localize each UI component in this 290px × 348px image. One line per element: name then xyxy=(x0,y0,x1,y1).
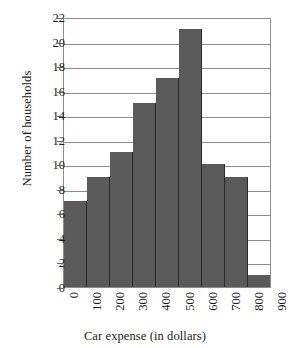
bar xyxy=(225,177,248,287)
x-tick-label: 600 xyxy=(207,292,220,311)
y-tick-mark xyxy=(57,141,63,142)
y-tick-mark xyxy=(57,43,63,44)
x-tick-label: 100 xyxy=(91,292,104,311)
y-tick-mark xyxy=(57,214,63,215)
y-axis-title: Number of households xyxy=(20,29,35,229)
bar xyxy=(156,78,179,287)
x-tick-label: 800 xyxy=(253,292,266,311)
y-tick-mark xyxy=(57,18,63,19)
bar xyxy=(110,152,133,287)
bar xyxy=(248,275,270,287)
y-tick-mark xyxy=(57,190,63,191)
x-tick-label: 0 xyxy=(68,292,81,298)
x-tick-label: 500 xyxy=(184,292,197,311)
histogram-chart: Number of households 0246810121416182022… xyxy=(0,0,290,348)
bar xyxy=(202,164,225,287)
bar xyxy=(87,177,110,287)
x-tick-label: 400 xyxy=(160,292,173,311)
y-tick-mark xyxy=(57,263,63,264)
bar xyxy=(179,29,202,287)
bar xyxy=(64,201,87,287)
x-tick-label: 900 xyxy=(276,292,289,311)
x-tick-label: 200 xyxy=(114,292,127,311)
bars-container xyxy=(64,19,270,287)
x-tick-label: 700 xyxy=(230,292,243,311)
y-tick-mark xyxy=(57,92,63,93)
bar xyxy=(133,103,156,287)
y-tick-mark xyxy=(57,288,63,289)
y-tick-mark xyxy=(57,165,63,166)
y-tick-mark xyxy=(57,67,63,68)
y-tick-mark xyxy=(57,116,63,117)
x-axis-title: Car expense (in dollars) xyxy=(0,329,290,344)
y-tick-mark xyxy=(57,239,63,240)
x-tick-label: 300 xyxy=(137,292,150,311)
plot-area xyxy=(63,18,271,288)
